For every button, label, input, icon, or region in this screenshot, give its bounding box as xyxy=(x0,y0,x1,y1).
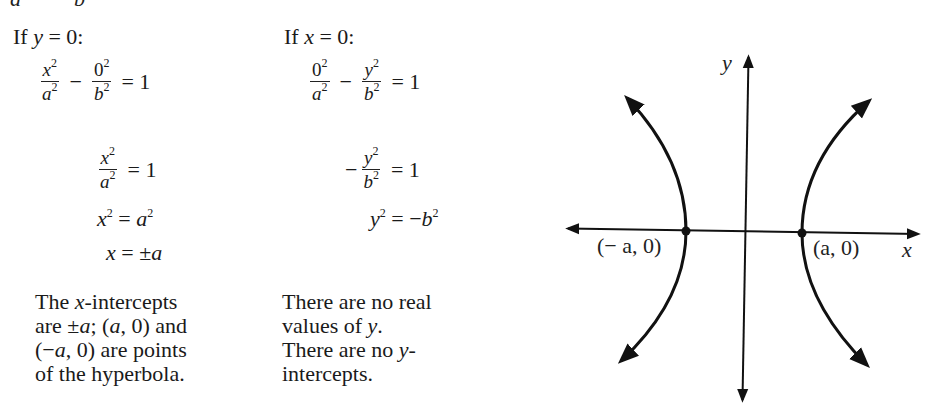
vertex-point-left xyxy=(682,227,691,236)
y-axis-label: y xyxy=(720,50,732,75)
vertex-point-right xyxy=(798,229,807,238)
y-axis xyxy=(743,57,749,400)
hyperbola-graph: y x (− a, 0) (a, 0) xyxy=(0,0,945,417)
left-vertex-label: (− a, 0) xyxy=(597,233,661,258)
x-axis-label: x xyxy=(901,237,912,262)
right-vertex-label: (a, 0) xyxy=(813,235,859,260)
